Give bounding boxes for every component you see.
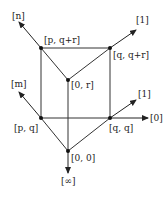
vertex-p-q: [39, 116, 43, 120]
label-ray-0: [0]: [150, 113, 163, 123]
vertices: [39, 46, 112, 153]
label-ray-n: [n]: [12, 11, 25, 21]
polyhedral-fan-diagram: [p, q+r] [q, q+r] [0, r] [p, q] [q, q] […: [0, 0, 166, 200]
vertex-q-q: [108, 116, 112, 120]
label-q-q: [q, q]: [109, 123, 133, 133]
vertex-0-r: [66, 78, 70, 82]
edge-qq-00: [68, 118, 110, 151]
label-ray-m: [m]: [11, 79, 27, 89]
edge-qqr-0r: [68, 48, 110, 80]
labels: [p, q+r] [q, q+r] [0, r] [p, q] [q, q] […: [11, 11, 163, 186]
ray-1-upper-arrow-icon: [110, 30, 136, 48]
label-p-qr: [p, q+r]: [44, 35, 80, 45]
rays: [19, 22, 148, 173]
label-q-qr: [q, q+r]: [113, 50, 149, 60]
ray-m-arrow-icon: [19, 92, 41, 118]
edges: [41, 48, 110, 151]
vertex-p-qr: [39, 46, 43, 50]
vertex-q-qr: [108, 46, 112, 50]
label-p-q: [p, q]: [14, 123, 38, 133]
label-0-r: [0, r]: [71, 80, 94, 90]
label-ray-1-upper: [1]: [136, 15, 149, 25]
edge-pq-00: [41, 118, 68, 151]
ray-n-arrow-icon: [19, 22, 41, 48]
label-0-0: [0, 0]: [71, 153, 95, 163]
ray-1-lower-arrow-icon: [110, 100, 136, 118]
edge-pqr-0r: [41, 48, 68, 80]
vertex-0-0: [66, 149, 70, 153]
label-ray-1-lower: [1]: [138, 89, 151, 99]
label-ray-infinity: [∞]: [61, 176, 76, 186]
